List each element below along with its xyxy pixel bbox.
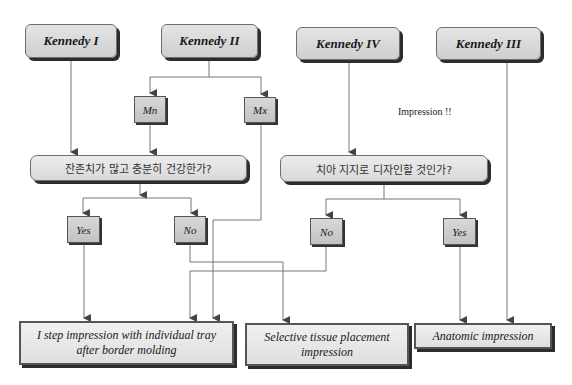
kennedy-ii-node: Kennedy II	[161, 24, 258, 58]
outcome-individual-tray: I step impression with individual tray a…	[19, 321, 234, 365]
mandibular-node: Mn	[134, 96, 166, 123]
kennedy-iv-node: Kennedy IV	[296, 27, 400, 60]
impression-note: Impression !!	[398, 106, 452, 117]
outcome-anatomic: Anatomic impression	[414, 323, 552, 349]
kennedy-iii-node: Kennedy III	[436, 27, 541, 60]
maxillary-node: Mx	[244, 97, 276, 123]
question-tooth-support: 치아 지지로 디자인할 것인가?	[280, 155, 488, 182]
q2-yes-node: Yes	[443, 218, 476, 245]
q2-no-node: No	[310, 218, 343, 245]
kennedy-i-node: Kennedy I	[25, 24, 117, 58]
outcome-selective-tissue: Selective tissue placement impression	[245, 323, 409, 366]
q1-yes-node: Yes	[67, 216, 100, 243]
q1-no-node: No	[174, 216, 206, 243]
question-remaining-teeth: 잔존치가 많고 충분히 건강한가?	[30, 155, 247, 181]
